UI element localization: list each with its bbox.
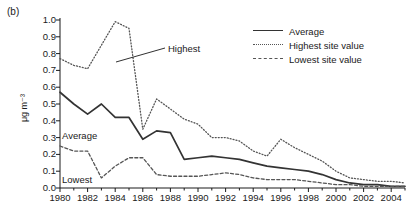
legend-label: Lowest site value: [289, 54, 362, 65]
legend-label: Average: [289, 26, 324, 37]
chart-panel: (b) μg m⁻³ 1.00.90.80.70.60.50.40.30.20.…: [0, 0, 411, 222]
legend-swatch-dotted-icon: [253, 40, 283, 50]
annotation-leader-line: [116, 48, 165, 62]
series-line-lowest-site-value: [60, 146, 405, 186]
legend-swatch-solid-icon: [253, 26, 283, 36]
legend-swatch-dashed-icon: [253, 54, 283, 64]
annotation-highest: Highest: [168, 43, 200, 54]
legend-item: Lowest site value: [253, 52, 364, 66]
annotation-lowest: Lowest: [62, 174, 92, 185]
legend-item: Average: [253, 24, 364, 38]
chart-legend: AverageHighest site valueLowest site val…: [253, 24, 364, 66]
annotation-average: Average: [62, 130, 97, 141]
legend-item: Highest site value: [253, 38, 364, 52]
legend-label: Highest site value: [289, 40, 364, 51]
